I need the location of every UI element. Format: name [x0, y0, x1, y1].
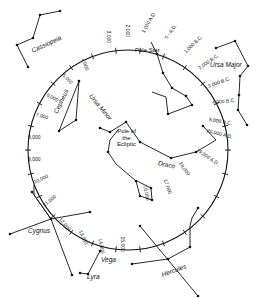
constellation-label: Ursa Major [210, 62, 242, 69]
constellation-label: Cygnus [28, 228, 50, 235]
pole-of-ecliptic-label: Pole of the Ecliptic [117, 128, 136, 148]
lyra-lines [80, 251, 100, 274]
center-label-line2: the [117, 135, 136, 142]
precession-diagram: 3,0002,0001,000 A.D.0 - A.D.1,000 B.C.2,… [0, 0, 257, 298]
constellation-label: Lyra [87, 274, 100, 281]
constellation-label: Vega [101, 257, 116, 264]
pole-star-label: Pole Star [135, 47, 160, 53]
year-tick-label: 2,000 [125, 25, 130, 38]
hercules-lines [140, 226, 198, 296]
year-tick-label: 8,000 [28, 135, 41, 140]
center-label-line1: Pole of [117, 128, 136, 135]
year-tick-label: 3,000 [106, 31, 111, 44]
year-tick-label: 15,000 [120, 237, 125, 252]
cygnus-lines-2 [51, 212, 90, 219]
center-label-line3: Ecliptic [117, 141, 136, 148]
year-tick-label: 9,000 [28, 157, 41, 162]
